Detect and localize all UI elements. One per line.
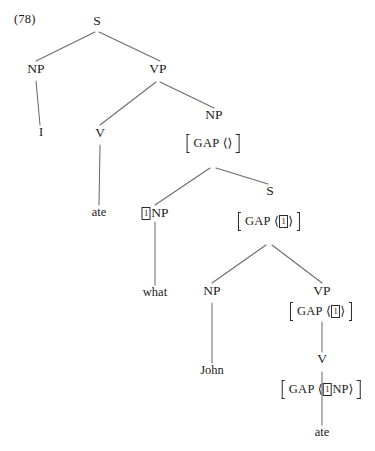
node-filler-np: 1NP [141, 206, 168, 220]
index-tag-1: 1 [323, 383, 332, 396]
syntax-tree-figure: (78) S NP VP I V NP GAP ⟨⟩ ate 1NP S GAP… [0, 0, 375, 451]
branch-np-filler [155, 168, 210, 205]
branch-vp-np [160, 82, 214, 108]
branch-v-ate [99, 145, 100, 205]
terminal-what: what [143, 286, 167, 299]
example-number: (78) [14, 12, 36, 27]
node-matrix-v: V [95, 126, 105, 140]
index-tag-1: 1 [331, 305, 340, 318]
node-object-np: NP [205, 108, 222, 122]
branch-s-np2 [212, 245, 266, 283]
node-embedded-v: V [317, 352, 327, 366]
feature-label-gap: GAP [245, 214, 271, 228]
avm-embedded-vp-gap: GAP ⟨1⟩ [290, 302, 352, 321]
feature-label-gap: GAP [297, 304, 323, 318]
branch-s-np [36, 32, 95, 61]
branch-np-i [36, 81, 40, 125]
node-matrix-vp: VP [149, 62, 166, 76]
avm-embedded-v-gap: GAP ⟨1NP⟩ [282, 380, 361, 399]
terminal-john: John [200, 364, 224, 377]
node-filler-np-label: NP [151, 205, 168, 220]
branch-s-vp2 [272, 245, 322, 283]
avm-embedded-s-gap: GAP ⟨1⟩ [238, 212, 300, 231]
angle-close: ⟩ [288, 214, 293, 228]
terminal-i: I [39, 126, 43, 139]
branch-s-vp [99, 32, 160, 61]
angle-close: ⟩ [348, 382, 353, 396]
node-subject-np: NP [27, 62, 44, 76]
feature-label-gap: GAP [194, 136, 220, 150]
branch-np-s [216, 168, 268, 184]
index-tag-1: 1 [141, 207, 150, 220]
angle-close: ⟩ [228, 136, 233, 150]
node-embedded-s: S [266, 184, 274, 198]
feature-label-gap: GAP [289, 382, 315, 396]
avm-object-np-gap: GAP ⟨⟩ [187, 134, 240, 153]
angle-close: ⟩ [340, 304, 345, 318]
terminal-ate-matrix: ate [92, 206, 107, 219]
index-tag-1: 1 [279, 215, 288, 228]
branch-vp-v [100, 82, 156, 125]
terminal-ate-embedded: ate [315, 426, 330, 439]
node-root-s: S [93, 14, 101, 28]
node-embedded-np: NP [203, 284, 220, 298]
gap-np-category: NP [332, 382, 348, 396]
node-embedded-vp: VP [313, 284, 330, 298]
